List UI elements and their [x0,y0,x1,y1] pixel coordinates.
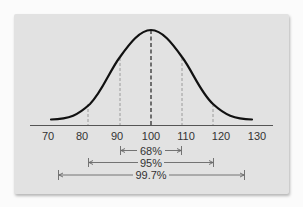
tick-label-90: 90 [111,130,123,142]
tick-label-100: 100 [142,130,160,142]
range-997-label: 99.7% [135,169,166,181]
tick-label-80: 80 [76,130,88,142]
range-95-label: 95% [140,157,162,169]
tick-label-110: 110 [177,130,195,142]
range-68-label: 68% [140,145,162,157]
x-axis-labels: 70 80 90 100 110 120 130 [42,130,266,142]
normal-distribution-chart: 70 80 90 100 110 120 130 68% 95% 99.7% [0,0,303,207]
tick-label-70: 70 [42,130,54,142]
tick-label-120: 120 [212,130,230,142]
tick-label-130: 130 [248,130,266,142]
